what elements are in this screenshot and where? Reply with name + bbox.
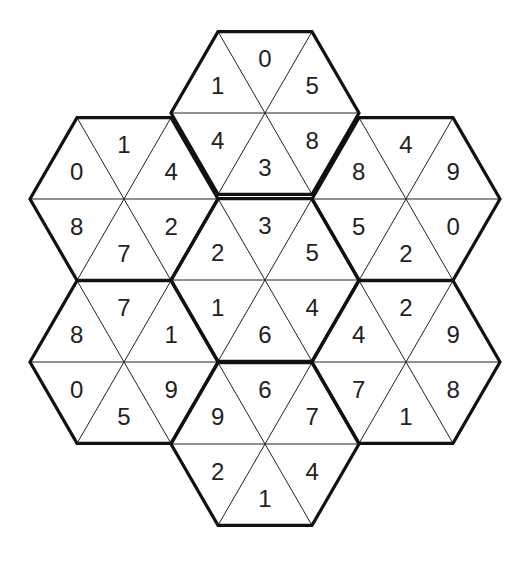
hexagon-upper-right: 490258 <box>312 118 500 281</box>
cell-number-upper-right: 4 <box>165 158 178 185</box>
cell-number-lower-left: 0 <box>70 376 83 403</box>
hexagon-upper-left: 142780 <box>30 118 218 281</box>
cell-number-bottom: 7 <box>117 240 130 267</box>
cell-number-upper-right: 5 <box>306 72 319 99</box>
cell-number-upper-left: 9 <box>211 403 224 430</box>
cell-number-bottom: 5 <box>117 403 130 430</box>
cell-number-upper-left: 4 <box>352 321 365 348</box>
cell-number-upper-right: 7 <box>306 403 319 430</box>
cell-number-lower-right: 2 <box>165 213 178 240</box>
cell-number-lower-right: 0 <box>447 213 460 240</box>
cell-number-upper-right: 5 <box>306 239 319 266</box>
cell-number-lower-left: 2 <box>211 458 224 485</box>
cell-number-lower-left: 1 <box>211 294 224 321</box>
cell-number-bottom: 1 <box>258 485 271 512</box>
hexagon-lower-right: 298174 <box>312 281 500 444</box>
hexagon-puzzle-diagram: 0583411427804902583546127195082981746741… <box>0 0 524 563</box>
cell-number-top: 0 <box>258 45 271 72</box>
hexagon-bottom: 674129 <box>171 363 359 526</box>
cell-number-top: 7 <box>117 294 130 321</box>
cell-number-upper-right: 1 <box>165 321 178 348</box>
cell-number-upper-left: 8 <box>352 158 365 185</box>
cell-number-lower-right: 8 <box>306 127 319 154</box>
cell-number-lower-right: 9 <box>165 376 178 403</box>
cell-number-top: 6 <box>258 376 271 403</box>
cell-number-upper-left: 2 <box>211 239 224 266</box>
cell-number-bottom: 1 <box>399 403 412 430</box>
cell-number-upper-left: 8 <box>70 321 83 348</box>
cell-number-lower-left: 7 <box>352 376 365 403</box>
cell-number-top: 1 <box>117 131 130 158</box>
cell-number-bottom: 6 <box>258 321 271 348</box>
cell-number-lower-right: 4 <box>306 294 319 321</box>
cell-number-lower-right: 8 <box>447 376 460 403</box>
cell-number-lower-right: 4 <box>306 458 319 485</box>
hexagon-lower-left: 719508 <box>30 281 218 444</box>
cell-number-top: 2 <box>399 294 412 321</box>
cell-number-bottom: 2 <box>399 240 412 267</box>
cell-number-lower-left: 8 <box>70 213 83 240</box>
cell-number-upper-left: 1 <box>211 72 224 99</box>
hexagon-middle: 354612 <box>171 199 359 362</box>
cell-number-bottom: 3 <box>258 154 271 181</box>
cell-number-upper-right: 9 <box>447 321 460 348</box>
hexagon-top: 058341 <box>171 32 359 195</box>
cell-number-upper-left: 0 <box>70 158 83 185</box>
cell-number-lower-left: 4 <box>211 127 224 154</box>
cell-number-upper-right: 9 <box>447 158 460 185</box>
cell-number-top: 3 <box>258 212 271 239</box>
cell-number-lower-left: 5 <box>352 213 365 240</box>
cell-number-top: 4 <box>399 131 412 158</box>
